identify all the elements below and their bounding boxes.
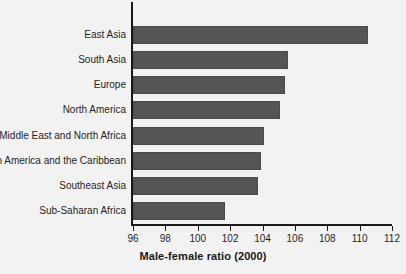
x-tick-label: 110: [352, 233, 368, 244]
category-label: Europe: [94, 76, 126, 94]
x-axis-title: Male-female ratio (2000): [0, 250, 406, 262]
bar-row: Europe: [133, 73, 392, 98]
x-tick-label: 100: [189, 233, 206, 244]
x-tick-label: 96: [127, 233, 138, 244]
x-tick: [198, 226, 199, 231]
x-tick-label: 106: [287, 233, 304, 244]
category-label: East Asia: [84, 26, 126, 44]
bar-chart: East AsiaSouth AsiaEuropeNorth AmericaMi…: [0, 0, 406, 274]
bar: [133, 202, 225, 220]
bar-row: East Asia: [133, 22, 392, 47]
bar: [133, 177, 258, 195]
x-tick-label: 98: [160, 233, 171, 244]
category-label: Latin America and the Caribbean: [0, 152, 126, 170]
bar: [133, 76, 285, 94]
x-tick: [133, 226, 134, 231]
x-tick: [392, 226, 393, 231]
bar-row: North America: [133, 98, 392, 123]
x-tick: [360, 226, 361, 231]
bar-row: Middle East and North Africa: [133, 123, 392, 148]
bar-row: Sub-Saharan Africa: [133, 199, 392, 224]
bar: [133, 127, 264, 145]
bar-row: Southeast Asia: [133, 174, 392, 199]
category-label: North America: [63, 101, 126, 119]
bar: [133, 51, 288, 69]
x-axis-ticks: 9698100102104106108110112: [133, 226, 392, 250]
category-label: Sub-Saharan Africa: [39, 202, 126, 220]
x-tick: [263, 226, 264, 231]
x-tick: [295, 226, 296, 231]
bar: [133, 101, 280, 119]
x-tick-label: 102: [222, 233, 239, 244]
x-tick: [327, 226, 328, 231]
x-tick-label: 104: [254, 233, 271, 244]
x-tick: [230, 226, 231, 231]
x-tick: [165, 226, 166, 231]
category-label: Middle East and North Africa: [0, 127, 126, 145]
plot-area: East AsiaSouth AsiaEuropeNorth AmericaMi…: [133, 22, 392, 224]
bar: [133, 26, 368, 44]
bar: [133, 152, 261, 170]
category-label: South Asia: [78, 51, 126, 69]
x-tick-label: 108: [319, 233, 336, 244]
bar-row: South Asia: [133, 47, 392, 72]
x-tick-label: 112: [384, 233, 400, 244]
bar-row: Latin America and the Caribbean: [133, 148, 392, 173]
category-label: Southeast Asia: [59, 177, 126, 195]
